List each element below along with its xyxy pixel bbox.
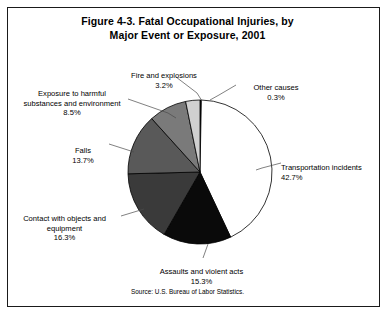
leader-line-assaults (203, 244, 208, 258)
slice-label-falls: Falls 13.7% (52, 137, 114, 174)
slice-label-contact-with-objects: Contact with objects and equipment 16.3% (8, 205, 121, 251)
slice-label-exposure: Exposure to harmful substances and envir… (13, 80, 131, 126)
leader-line-other (210, 85, 236, 100)
slice-label-other-name: Other causes (253, 83, 298, 92)
slice-label-other-pct: 0.3% (238, 93, 314, 102)
slice-label-falls-pct: 13.7% (52, 156, 114, 165)
slice-label-exposure-pct: 8.5% (13, 108, 131, 117)
slice-label-other-causes: Other causes 0.3% (238, 74, 314, 111)
figure-container: Figure 4-3. Fatal Occupational Injuries,… (0, 0, 389, 316)
slice-label-assaults-name: Assaults and violent acts (160, 267, 244, 276)
slice-label-transportation-incidents: Transportation incidents 42.7% (281, 154, 385, 191)
slice-label-fire-pct: 3.2% (117, 81, 211, 90)
slice-label-exposure-name: Exposure to harmful substances and envir… (23, 89, 120, 107)
slice-label-transport-pct: 42.7% (281, 173, 385, 182)
slice-label-transport-name: Transportation incidents (281, 163, 362, 172)
slice-label-assaults-pct: 15.3% (129, 277, 274, 286)
source-note: Source: U.S. Bureau of Labor Statistics. (30, 288, 345, 295)
slice-label-contact-name: Contact with objects and equipment (23, 214, 106, 232)
pie-slice-group (128, 100, 272, 244)
slice-label-fire-name: Fire and explosions (131, 71, 197, 80)
slice-label-contact-pct: 16.3% (8, 233, 121, 242)
slice-label-falls-name: Falls (75, 146, 91, 155)
slice-label-fire-and-explosions: Fire and explosions 3.2% (117, 62, 211, 99)
